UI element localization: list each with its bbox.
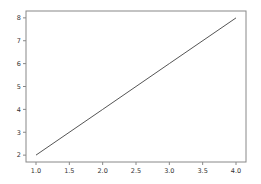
x-tick-label: 4.0 xyxy=(231,167,241,175)
y-tick-label: 8 xyxy=(17,14,21,22)
x-tick-label: 3.0 xyxy=(164,167,174,175)
x-tick-label: 2.0 xyxy=(97,167,107,175)
x-axis-ticks: 1.01.52.02.53.03.54.0 xyxy=(31,162,241,175)
y-tick-label: 4 xyxy=(17,106,21,114)
y-tick-label: 6 xyxy=(17,60,21,68)
y-axis-ticks: 2345678 xyxy=(17,14,26,159)
y-tick-label: 7 xyxy=(17,37,21,45)
y-tick-label: 3 xyxy=(17,129,21,137)
x-tick-label: 1.0 xyxy=(31,167,41,175)
x-tick-label: 3.5 xyxy=(197,167,207,175)
x-tick-label: 1.5 xyxy=(64,167,74,175)
x-tick-label: 2.5 xyxy=(131,167,141,175)
line-chart: 2345678 1.01.52.02.53.03.54.0 xyxy=(0,0,261,184)
y-tick-label: 5 xyxy=(17,83,21,91)
y-tick-label: 2 xyxy=(17,151,21,159)
